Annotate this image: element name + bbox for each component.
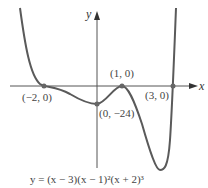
label-0-neg24: (0, −24) xyxy=(99,107,135,120)
y-axis-arrow-icon xyxy=(94,11,100,20)
label-neg2-0: (−2, 0) xyxy=(22,91,52,104)
graph-canvas: x y (−2, 0) (1, 0) (3, 0) (0, −24) y = (… xyxy=(0,0,208,188)
point-1-0 xyxy=(120,84,125,89)
point-neg2-0 xyxy=(42,84,47,89)
function-equation: y = (x − 3)(x − 1)²(x + 2)³ xyxy=(30,173,145,186)
point-0-neg24 xyxy=(95,102,100,107)
x-axis-label: x xyxy=(198,79,205,93)
x-axis-arrow-icon xyxy=(189,83,198,89)
label-1-0: (1, 0) xyxy=(110,67,134,80)
y-axis-label: y xyxy=(85,7,92,21)
label-3-0: (3, 0) xyxy=(145,89,169,102)
point-3-0 xyxy=(171,84,176,89)
